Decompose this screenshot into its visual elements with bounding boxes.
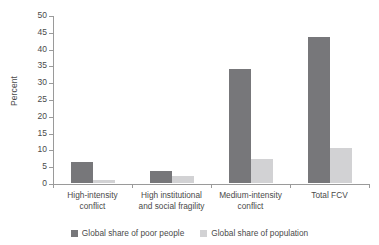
y-axis-tick-mark [49, 66, 53, 67]
y-axis-tick-label: 0 [42, 178, 47, 189]
bar [172, 176, 194, 183]
legend-swatch-icon [200, 230, 207, 237]
y-axis-line [53, 16, 54, 185]
x-axis-tick-mark [290, 184, 291, 188]
x-axis-tick-mark [369, 184, 370, 188]
bar [251, 159, 273, 183]
y-axis-tick-mark [49, 100, 53, 101]
bar [150, 171, 172, 183]
y-axis-tick-label: 30 [38, 77, 47, 88]
x-axis-category-label-line: High-intensity [53, 190, 132, 201]
legend-item[interactable]: Global share of population [200, 228, 308, 238]
plot-area: 50454035302520151050 [53, 16, 369, 184]
legend-label: Global share of poor people [82, 228, 184, 238]
x-axis-category-label-line: and social fragility [132, 201, 211, 212]
bar-group [308, 15, 352, 183]
x-axis-category-label: High-intensityconflict [53, 190, 132, 211]
y-axis-tick-label: 35 [38, 60, 47, 71]
y-axis-tick-mark [49, 150, 53, 151]
x-axis-category-label-line: conflict [53, 201, 132, 212]
x-axis-tick-mark [53, 184, 54, 188]
bar [229, 69, 251, 183]
y-axis-tick-label: 15 [38, 128, 47, 139]
y-axis-tick-label: 50 [38, 10, 47, 21]
y-axis-tick-mark [49, 50, 53, 51]
y-axis-tick-mark [49, 134, 53, 135]
y-axis-tick-label: 45 [38, 27, 47, 38]
x-axis-category-label-line: conflict [211, 201, 290, 212]
x-axis-category-label: High institutionaland social fragility [132, 190, 211, 211]
y-axis-tick-label: 20 [38, 111, 47, 122]
y-axis-tick-mark [49, 16, 53, 17]
legend-swatch-icon [71, 230, 78, 237]
x-axis-category-label: Total FCV [290, 190, 369, 201]
bar [93, 180, 115, 183]
x-axis-category-label-line: Medium-intensity [211, 190, 290, 201]
x-axis-category-label-line: High institutional [132, 190, 211, 201]
y-axis-tick-mark [49, 33, 53, 34]
bar-chart-figure: Percent 50454035302520151050 High-intens… [0, 0, 379, 245]
y-axis-tick-label: 25 [38, 94, 47, 105]
y-axis-tick-mark [49, 167, 53, 168]
bar [308, 37, 330, 183]
bar-group [150, 15, 194, 183]
y-axis-title: Percent [9, 61, 19, 121]
x-axis-category-label-line: Total FCV [290, 190, 369, 201]
x-axis-tick-mark [132, 184, 133, 188]
legend-item[interactable]: Global share of poor people [71, 228, 184, 238]
legend-label: Global share of population [211, 228, 308, 238]
chart-legend: Global share of poor peopleGlobal share … [0, 228, 379, 238]
x-axis-category-label: Medium-intensityconflict [211, 190, 290, 211]
bar-group [229, 15, 273, 183]
bar [71, 162, 93, 183]
bar [330, 148, 352, 183]
y-axis-tick-label: 10 [38, 144, 47, 155]
bar-group [71, 15, 115, 183]
y-axis-tick-mark [49, 83, 53, 84]
x-axis-tick-mark [211, 184, 212, 188]
y-axis-tick-mark [49, 117, 53, 118]
y-axis-tick-label: 5 [42, 161, 47, 172]
y-axis-tick-label: 40 [38, 44, 47, 55]
